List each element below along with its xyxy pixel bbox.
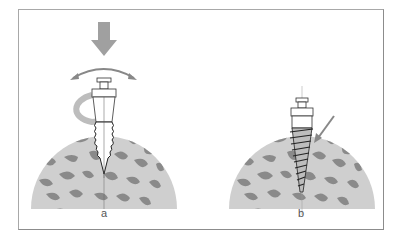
diagram-canvas [0,0,397,241]
down-arrow-icon [91,22,117,56]
panel-label-a: a [101,207,107,219]
panel-a [31,22,177,217]
panel-label-b: b [298,207,304,219]
rotation-arc-icon [73,69,134,78]
panel-b [229,86,375,217]
